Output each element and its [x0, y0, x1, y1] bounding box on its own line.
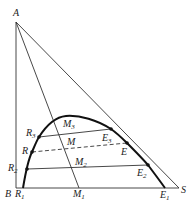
label-r3: R3 [25, 127, 36, 140]
label-a: A [12, 7, 20, 18]
label-s: S [181, 184, 186, 195]
ternary-diagram: A B S R1 R2 R R3 M3 M M2 M1 E3 E E2 E1 [0, 0, 192, 215]
tie-line-r-e [32, 143, 127, 152]
label-e3: E3 [101, 132, 112, 145]
point-e3 [109, 127, 113, 131]
point-r3 [37, 135, 41, 139]
label-m1: M1 [72, 188, 85, 201]
label-e1: E1 [159, 189, 170, 202]
label-b: B [5, 188, 11, 199]
edge-a-s [16, 22, 179, 188]
label-m: M [66, 136, 76, 147]
label-m3: M3 [62, 118, 75, 131]
tie-line-r2-e2 [27, 165, 148, 169]
label-r1: R1 [14, 188, 25, 201]
point-e [125, 141, 129, 145]
label-r: R [21, 145, 28, 156]
point-r [30, 150, 34, 154]
point-e2 [146, 163, 150, 167]
line-a-m1 [16, 22, 79, 188]
label-e2: E2 [136, 167, 147, 180]
label-e: E [120, 146, 127, 157]
point-r2 [25, 167, 29, 171]
